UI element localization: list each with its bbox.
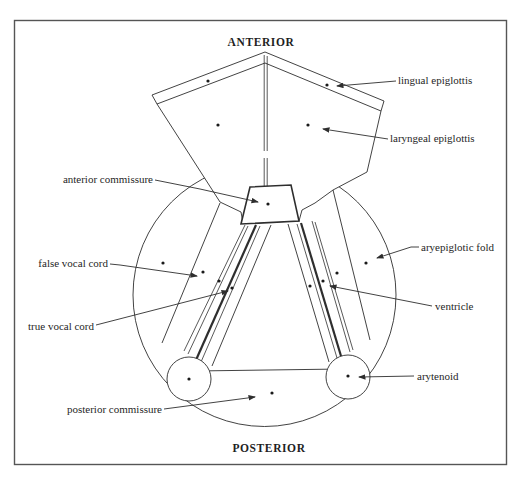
false-vocal-cord-outer-edge-left <box>162 203 220 343</box>
left-vocal-band <box>162 203 271 366</box>
reference-dot <box>364 261 367 264</box>
anterior-commissure-trapezoid <box>241 185 299 224</box>
true-vocal-cord-companion-left <box>201 226 260 362</box>
orientation-label-anterior: ANTERIOR <box>228 36 295 48</box>
ventricle-line-b-left <box>188 226 248 354</box>
leader-lingual-epiglottis <box>337 81 396 86</box>
leader-posterior-commissure <box>164 397 255 409</box>
leader-false-vocal-cord <box>110 264 197 276</box>
reference-dot <box>216 123 219 126</box>
ventricle-line-a-left <box>184 225 245 351</box>
label-true-vocal-cord: true vocal cord <box>28 320 94 332</box>
leader-aryepiglotic-fold <box>377 247 419 258</box>
reference-dot <box>325 83 328 86</box>
leader-ventricle <box>330 286 432 306</box>
leader-true-vocal-cord <box>96 291 228 325</box>
larynx-diagram: ANTERIOR POSTERIOR lingual epiglottis la… <box>0 0 522 483</box>
figure-page: ANTERIOR POSTERIOR lingual epiglottis la… <box>0 0 522 483</box>
interarytenoid-line <box>195 369 342 371</box>
orientation-label-posterior: POSTERIOR <box>232 442 305 454</box>
reference-dot <box>161 261 164 264</box>
reference-dot <box>187 377 190 380</box>
reference-dot <box>206 79 209 82</box>
label-posterior-commissure: posterior commissure <box>67 403 162 415</box>
label-arytenoid: arytenoid <box>417 370 459 382</box>
label-false-vocal-cord: false vocal cord <box>38 257 108 269</box>
reference-dot <box>306 123 309 126</box>
reference-dot <box>266 202 269 205</box>
reference-dot <box>270 391 273 394</box>
true-vocal-cord-companion-right <box>297 224 337 358</box>
reference-dot <box>321 279 324 282</box>
label-aryepiglotic-fold: aryepiglotic fold <box>421 241 495 253</box>
reference-dot <box>201 270 204 273</box>
label-laryngeal-epiglottis: laryngeal epiglottis <box>390 132 475 144</box>
reference-dot <box>335 271 338 274</box>
reference-dot <box>217 279 220 282</box>
label-anterior-commissure: anterior commissure <box>63 173 153 185</box>
label-ventricle: ventricle <box>435 300 474 312</box>
reference-dot <box>230 286 233 289</box>
label-lingual-epiglottis: lingual epiglottis <box>398 74 472 86</box>
glottis-inner-edge-left <box>212 225 271 366</box>
false-vocal-cord-outer-edge-right <box>333 190 370 340</box>
reference-dot <box>346 374 349 377</box>
true-vocal-cord-line-left <box>196 225 256 360</box>
reference-dot <box>308 284 311 287</box>
